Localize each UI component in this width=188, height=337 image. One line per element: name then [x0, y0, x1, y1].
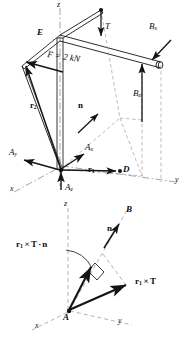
reaction-Bz-subscript: z: [139, 92, 141, 98]
tension-T-label: T: [105, 22, 110, 31]
lower-y-axis-label: y: [118, 317, 122, 325]
moment-r-subscript: 1: [139, 280, 142, 286]
triple-r-subscript: 1: [20, 243, 23, 249]
projection-arc: [66, 250, 92, 268]
lower-point-A-label: A: [63, 313, 69, 322]
reaction-Bx-arrow: [152, 40, 171, 60]
triple-T-symbol: T: [31, 239, 37, 249]
reaction-Ax-subscript: x: [91, 146, 94, 152]
triple-n-symbol: n: [42, 239, 47, 249]
upper-unit-normal-n-label: n: [78, 101, 83, 110]
position-vector-r2-label: r2: [30, 101, 37, 111]
reaction-Ay-subscript: y: [15, 151, 18, 157]
upper-y-axis-label: y: [175, 176, 179, 184]
lower-y-axis-line: [70, 311, 132, 325]
reaction-Ax-arrow: [61, 154, 84, 169]
upper-z-axis-label: z: [57, 1, 60, 9]
moment-vector-label: r1×T: [135, 277, 156, 287]
lower-point-B-label: B: [126, 205, 132, 214]
point-D-dot: [118, 169, 122, 173]
projection-closing-line: [103, 254, 126, 285]
reaction-Ax-label: Ax: [85, 143, 93, 153]
reaction-Az-label: Az: [65, 183, 73, 193]
r2-subscript: 2: [34, 104, 37, 110]
position-vector-r1-label: r1: [88, 165, 95, 175]
frame-member-r2-edge: [22, 66, 61, 170]
moment-T-symbol: T: [150, 276, 156, 286]
moment-vector-arrow: [69, 285, 126, 310]
upper-x-axis-label: x: [10, 185, 14, 193]
lower-z-axis-label: z: [64, 200, 67, 208]
reaction-Bz-label: Bz: [133, 89, 141, 99]
position-vector-r2-arrow: [26, 66, 61, 169]
lower-panel-drawing: [32, 208, 132, 330]
lower-unit-normal-n-label: n: [107, 224, 112, 233]
moment-cross-symbol: ×: [143, 276, 148, 286]
upper-x-axis-line: [14, 166, 62, 192]
triple-cross-symbol: ×: [24, 239, 29, 249]
frame-top-brace: [60, 10, 103, 38]
reaction-Ay-label: Ay: [9, 148, 17, 158]
point-D-label: D: [123, 165, 130, 174]
scalar-triple-product-label: r1×T·n: [16, 240, 47, 250]
point-E-label: E: [37, 28, 43, 37]
figure-container: z x y E D T F = 2 kN Bx Bz Ax Ay Az r1 r…: [0, 0, 188, 337]
force-F-arrow: [26, 62, 63, 72]
lower-x-axis-label: x: [35, 322, 39, 330]
triple-dot-symbol: ·: [38, 239, 41, 249]
reaction-Ay-arrow: [24, 160, 60, 170]
reaction-Bx-subscript: x: [155, 25, 158, 31]
unit-normal-n-arrow: [78, 114, 98, 133]
reaction-Az-subscript: z: [71, 186, 73, 192]
upper-construction-lines: [61, 10, 161, 182]
reaction-Bx-label: Bx: [149, 22, 157, 32]
projection-vector-arrow: [69, 267, 91, 310]
r1-subscript: 1: [92, 168, 95, 174]
